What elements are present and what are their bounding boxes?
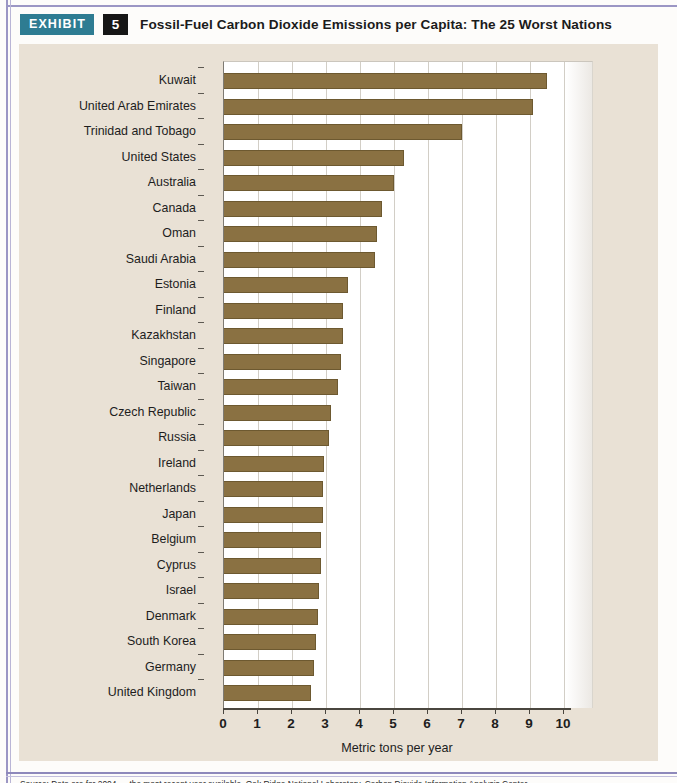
category-label-russia: Russia — [19, 430, 204, 444]
chart-bars — [224, 62, 592, 708]
bar-row — [224, 405, 331, 421]
category-label-oman: Oman — [19, 226, 204, 240]
bar-canada — [224, 201, 382, 217]
y-axis-tick — [198, 501, 204, 502]
exhibit-number-badge: 5 — [103, 14, 128, 35]
y-axis-tick — [198, 399, 204, 400]
bar-row — [224, 532, 321, 548]
bar-row — [224, 99, 533, 115]
y-axis-tick — [198, 654, 204, 655]
bar-russia — [224, 430, 329, 446]
bar-row — [224, 456, 324, 472]
y-axis-tick — [198, 322, 204, 323]
bar-row — [224, 277, 348, 293]
bar-row — [224, 609, 318, 625]
x-ticklabel-10: 10 — [551, 716, 575, 731]
x-axis-title: Metric tons per year — [223, 741, 571, 755]
x-tick-2 — [291, 708, 292, 714]
y-axis-tick — [198, 220, 204, 221]
bar-oman — [224, 226, 377, 242]
y-axis-tick — [198, 424, 204, 425]
bar-united-arab-emirates — [224, 99, 533, 115]
page-rule-left — [6, 0, 8, 783]
y-axis-tick — [198, 144, 204, 145]
bar-row — [224, 73, 547, 89]
x-ticklabel-8: 8 — [483, 716, 507, 731]
category-label-germany: Germany — [19, 660, 204, 674]
bar-row — [224, 558, 321, 574]
bar-kazakhstan — [224, 328, 343, 344]
x-tick-0 — [223, 708, 224, 714]
category-label-cyprus: Cyprus — [19, 558, 204, 572]
bar-row — [224, 201, 382, 217]
category-label-israel: Israel — [19, 583, 204, 597]
y-axis-tick — [198, 169, 204, 170]
bar-germany — [224, 660, 314, 676]
x-tick-7 — [461, 708, 462, 714]
bar-row — [224, 252, 375, 268]
bar-singapore — [224, 354, 341, 370]
bar-row — [224, 430, 329, 446]
exhibit-badge: EXHIBIT — [20, 14, 94, 35]
x-tick-1 — [257, 708, 258, 714]
bar-australia — [224, 175, 394, 191]
bar-kuwait — [224, 73, 547, 89]
bar-united-kingdom — [224, 685, 311, 701]
y-axis-tick — [198, 679, 204, 680]
bar-row — [224, 175, 394, 191]
x-ticklabel-5: 5 — [381, 716, 405, 731]
category-label-kuwait: Kuwait — [19, 73, 204, 87]
bar-row — [224, 481, 323, 497]
y-axis-tick — [198, 348, 204, 349]
x-axis-line — [223, 708, 571, 710]
category-label-australia: Australia — [19, 175, 204, 189]
bar-ireland — [224, 456, 324, 472]
bar-finland — [224, 303, 343, 319]
y-axis-tick — [198, 526, 204, 527]
x-ticklabel-3: 3 — [313, 716, 337, 731]
x-ticklabel-6: 6 — [415, 716, 439, 731]
category-label-united-arab-emirates: United Arab Emirates — [19, 99, 204, 113]
bar-japan — [224, 507, 323, 523]
category-label-saudi-arabia: Saudi Arabia — [19, 252, 204, 266]
bar-belgium — [224, 532, 321, 548]
x-ticklabel-1: 1 — [245, 716, 269, 731]
y-axis-tick — [198, 603, 204, 604]
x-tick-6 — [427, 708, 428, 714]
bar-denmark — [224, 609, 318, 625]
bar-row — [224, 354, 341, 370]
bar-row — [224, 328, 343, 344]
bar-row — [224, 124, 462, 140]
page-rule-top — [6, 5, 677, 7]
category-label-estonia: Estonia — [19, 277, 204, 291]
bar-row — [224, 660, 314, 676]
y-axis-tick — [198, 195, 204, 196]
page-title: Fossil-Fuel Carbon Dioxide Emissions per… — [140, 17, 612, 32]
x-tick-5 — [393, 708, 394, 714]
y-axis-tick — [198, 118, 204, 119]
bar-row — [224, 583, 319, 599]
bar-taiwan — [224, 379, 338, 395]
category-label-taiwan: Taiwan — [19, 379, 204, 393]
category-label-kazakhstan: Kazakhstan — [19, 328, 204, 342]
bar-row — [224, 685, 311, 701]
exhibit-header: EXHIBIT 5 Fossil-Fuel Carbon Dioxide Emi… — [20, 13, 612, 35]
category-label-south-korea: South Korea — [19, 634, 204, 648]
y-axis-tick — [198, 297, 204, 298]
x-ticklabel-7: 7 — [449, 716, 473, 731]
category-label-belgium: Belgium — [19, 532, 204, 546]
bar-united-states — [224, 150, 404, 166]
chart-plot-area — [223, 61, 593, 708]
category-label-trinidad-and-tobago: Trinidad and Tobago — [19, 124, 204, 138]
bar-trinidad-and-tobago — [224, 124, 462, 140]
x-tick-8 — [495, 708, 496, 714]
category-label-denmark: Denmark — [19, 609, 204, 623]
y-axis-tick — [198, 450, 204, 451]
category-label-united-kingdom: United Kingdom — [19, 685, 204, 699]
bar-row — [224, 226, 377, 242]
bar-czech-republic — [224, 405, 331, 421]
category-label-ireland: Ireland — [19, 456, 204, 470]
y-axis-tick — [198, 577, 204, 578]
category-label-united-states: United States — [19, 150, 204, 164]
bar-south-korea — [224, 634, 316, 650]
